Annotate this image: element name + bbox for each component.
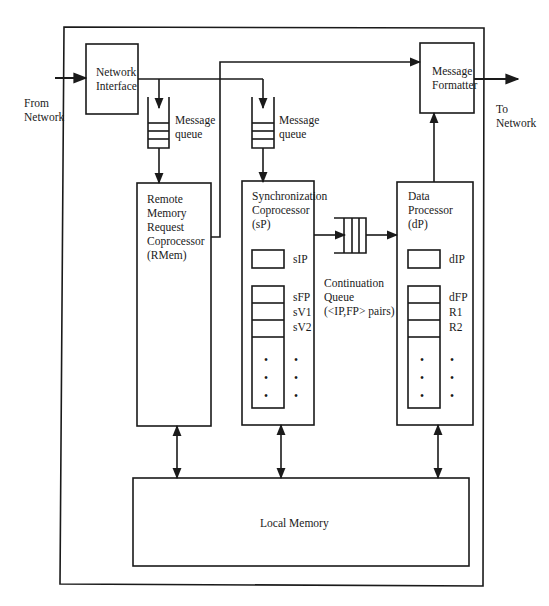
dp-dots-labels: • • • xyxy=(450,351,454,405)
sp-v2-register: sV2 xyxy=(293,320,312,334)
sp-ip-register: sIP xyxy=(293,252,308,266)
dp-fp-register: dFP xyxy=(449,290,468,304)
continuation-queue-label: Continuation Queue (<IP,FP> pairs) xyxy=(324,276,394,318)
sp-dots: • • • xyxy=(264,351,268,405)
sp-queue-label: Message queue xyxy=(279,113,319,141)
from-network-label: From Network xyxy=(24,96,64,124)
message-formatter-label: Message Formatter xyxy=(432,64,477,92)
dp-label: Data Processor (dP) xyxy=(408,189,453,231)
local-memory-label: Local Memory xyxy=(260,516,329,530)
sp-v1-register: sV1 xyxy=(293,305,312,319)
rmem-label: Remote Memory Request Coprocessor (RMem) xyxy=(147,192,205,262)
rmem-queue-label: Message queue xyxy=(175,113,215,141)
sp-dots-labels: • • • xyxy=(294,351,298,405)
dp-ip-register: dIP xyxy=(449,252,465,266)
dp-r1-register: R1 xyxy=(449,305,462,319)
dp-r2-register: R2 xyxy=(449,320,462,334)
to-network-label: To Network xyxy=(496,102,536,130)
sp-label: Synchronization Coprocessor (sP) xyxy=(252,189,327,231)
dp-dots: • • • xyxy=(420,351,424,405)
network-interface-label: Network Interface xyxy=(96,65,137,93)
sp-fp-register: sFP xyxy=(293,290,310,304)
